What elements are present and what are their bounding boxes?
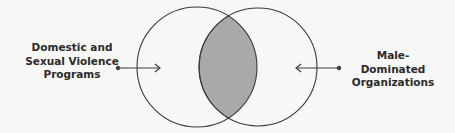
left-label-line: Sexual Violence <box>18 55 126 69</box>
right-set-label: Male-Dominated Organizations <box>345 49 441 90</box>
left-label-line: Domestic and <box>18 41 126 55</box>
right-label-line: Male-Dominated <box>345 49 441 76</box>
intersection-region <box>199 8 317 126</box>
left-set-label: Domestic and Sexual Violence Programs <box>18 41 126 82</box>
left-label-line: Programs <box>18 68 126 82</box>
right-arrow <box>296 64 341 72</box>
right-label-line: Organizations <box>345 76 441 90</box>
venn-diagram: Domestic and Sexual Violence Programs Ma… <box>0 0 455 133</box>
